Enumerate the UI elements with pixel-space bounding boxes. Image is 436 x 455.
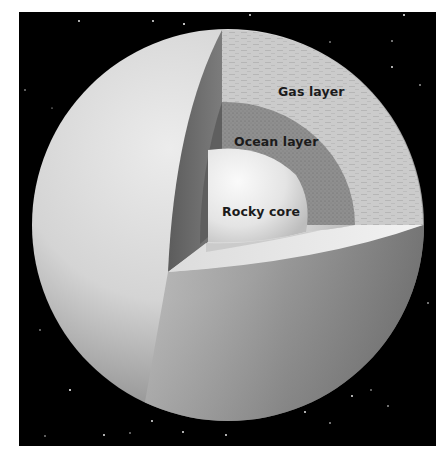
label-rocky-core: Rocky core [222,204,300,219]
planet-cutaway-illustration [0,0,436,455]
label-gas-layer: Gas layer [278,84,345,99]
label-ocean-layer: Ocean layer [234,134,318,149]
